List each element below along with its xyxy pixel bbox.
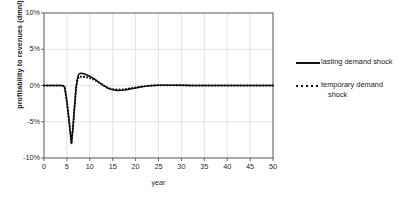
x-tick-label: 20 — [125, 162, 147, 171]
legend-key-dotted-line-icon — [296, 81, 320, 91]
legend-label-temporary: temporary demandshock — [320, 80, 383, 99]
x-tick-label: 25 — [148, 162, 170, 171]
x-tick-label: 45 — [239, 162, 261, 171]
legend-label-temporary-line1: temporary demand — [321, 80, 383, 89]
chart-figure: -10%-5%0%5%10% profitability to revenues… — [0, 0, 417, 197]
legend-label-lasting: lasting demand shock — [320, 57, 393, 67]
legend-item-lasting-demand-shock[interactable]: lasting demand shock — [296, 57, 417, 68]
x-tick-label: 10 — [79, 162, 101, 171]
legend-label-temporary-line2: shock — [321, 90, 383, 100]
x-tick-label: 30 — [170, 162, 192, 171]
legend-item-temporary-demand-shock[interactable]: temporary demandshock — [296, 80, 417, 99]
x-tick-label: 35 — [193, 162, 215, 171]
x-tick-label: 50 — [262, 162, 284, 171]
x-tick-label: 15 — [102, 162, 124, 171]
chart-legend: lasting demand shock temporary demandsho… — [296, 57, 417, 111]
legend-key-solid-line-icon — [296, 58, 320, 68]
x-tick-label: 5 — [56, 162, 78, 171]
x-tick-label: 0 — [33, 162, 55, 171]
x-tick-label: 40 — [216, 162, 238, 171]
